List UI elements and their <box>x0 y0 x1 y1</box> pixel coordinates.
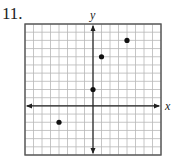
data-point <box>124 38 129 43</box>
x-axis-label: x <box>164 99 171 113</box>
y-axis-down-arrow-icon <box>91 148 96 154</box>
x-axis-right-arrow-icon <box>154 103 160 108</box>
x-axis-left-arrow-icon <box>26 103 32 108</box>
y-axis-label: y <box>89 8 96 22</box>
data-point <box>56 120 61 125</box>
data-point <box>99 54 104 59</box>
data-point <box>90 87 95 92</box>
y-axis-up-arrow-icon <box>91 25 96 31</box>
scatter-plot: x y <box>0 0 175 157</box>
